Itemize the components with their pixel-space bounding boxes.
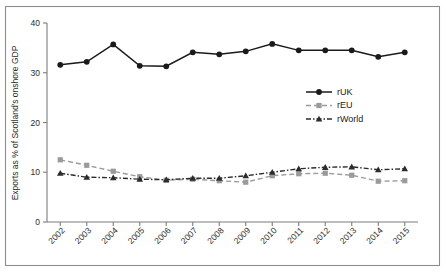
data-point-marker [137,63,143,69]
data-point-marker [296,47,302,53]
y-axis: 010203040 [31,18,47,227]
y-tick-label: 0 [35,217,40,227]
x-tick-label: 2008 [205,225,226,246]
legend-label: rWorld [337,114,363,124]
data-point-marker [349,47,355,53]
data-point-marker [296,171,301,176]
line-chart: 010203040 200220032004200520062007200820… [0,0,446,272]
data-point-marker [58,157,63,162]
chart-figure: 010203040 200220032004200520062007200820… [0,0,446,272]
legend-label: rUK [337,87,353,97]
x-tick-label: 2010 [258,225,279,246]
data-point-marker [243,48,249,54]
y-tick-label: 10 [31,167,41,177]
data-point-marker [402,178,407,183]
data-point-marker [243,180,248,185]
x-tick-label: 2006 [152,225,173,246]
x-tick-label: 2015 [391,225,412,246]
series-rUK [57,41,407,69]
data-point-marker [323,171,328,176]
x-tick-label: 2007 [179,225,200,246]
legend-item-rWorld[interactable]: rWorld [306,114,363,124]
legend-label: rEU [337,100,353,110]
data-point-marker [84,59,90,65]
data-point-marker [376,179,381,184]
data-point-marker [163,63,169,69]
y-tick-label: 20 [31,118,41,128]
data-point-marker [316,103,321,108]
data-point-marker [216,51,222,57]
data-point-marker [111,169,116,174]
data-point-marker [316,89,322,95]
x-axis: 2002200320042005200620072008200920102011… [46,222,418,246]
data-point-marker [402,49,408,55]
data-point-marker [84,163,89,168]
x-tick-label: 2004 [99,225,120,246]
legend-item-rEU[interactable]: rEU [306,100,353,110]
series-rWorld [57,163,408,182]
y-axis-title: Exports as % of Scotland's onshore GDP [10,45,20,200]
x-tick-label: 2009 [232,225,253,246]
series-line [60,44,405,66]
x-tick-label: 2005 [126,225,147,246]
data-point-marker [242,172,249,178]
data-point-marker [269,41,275,47]
data-point-marker [57,62,63,68]
series-rEU [58,157,408,185]
x-tick-label: 2003 [73,225,94,246]
data-point-marker [349,173,354,178]
chart-legend: rUKrEUrWorld [306,87,363,124]
y-tick-label: 30 [31,68,41,78]
figure-border [6,7,440,266]
legend-item-rUK[interactable]: rUK [306,87,353,97]
data-point-marker [190,49,196,55]
y-tick-label: 40 [31,18,41,28]
x-tick-label: 2014 [364,225,385,246]
x-tick-label: 2011 [285,225,305,245]
data-point-marker [375,54,381,60]
data-point-marker [322,47,328,53]
data-point-marker [110,41,116,47]
x-tick-label: 2012 [311,225,332,246]
x-tick-label: 2002 [46,225,67,246]
x-tick-label: 2013 [338,225,359,246]
